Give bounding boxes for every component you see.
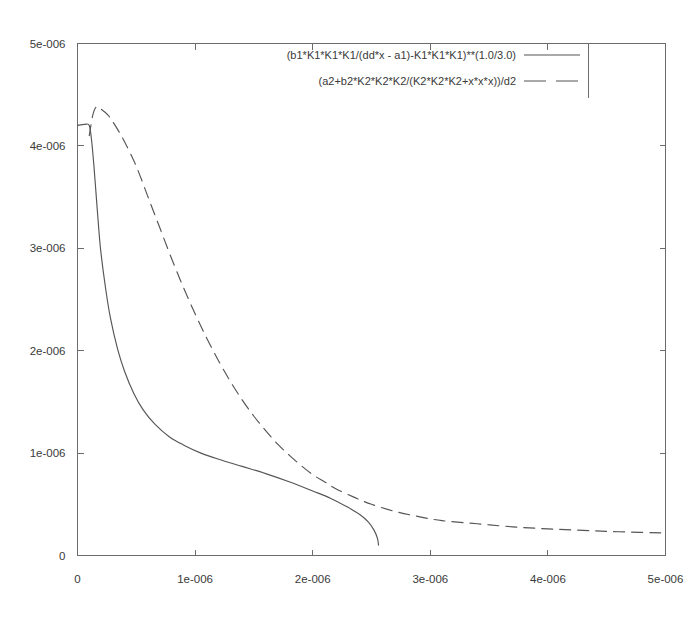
plot-frame xyxy=(78,44,666,556)
data-curve-1 xyxy=(78,124,379,545)
y-axis-tick-label: 1e-006 xyxy=(30,447,66,459)
x-axis-tick-label: 4e-006 xyxy=(530,573,566,585)
plot-border xyxy=(78,44,666,556)
x-axis-tick-label: 0 xyxy=(74,573,80,585)
chart-container: 01e-0062e-0063e-0064e-0065e-00601e-0062e… xyxy=(0,0,688,632)
y-axis-tick-label: 4e-006 xyxy=(30,140,66,152)
data-curves-layer xyxy=(78,107,666,546)
y-axis-tick-label: 5e-006 xyxy=(30,38,66,50)
legend-entry-label-1: (b1*K1*K1*K1/(dd*x - a1)-K1*K1*K1)**(1.0… xyxy=(287,49,516,61)
legend-entry-label-2: (a2+b2*K2*K2*K2/(K2*K2*K2+x*x*x))/d2 xyxy=(318,75,516,87)
x-axis-tick-label: 3e-006 xyxy=(412,573,448,585)
line-chart: 01e-0062e-0063e-0064e-0065e-00601e-0062e… xyxy=(0,0,688,632)
axis-labels-layer: 01e-0062e-0063e-0064e-0065e-00601e-0062e… xyxy=(30,38,684,585)
axis-ticks-layer xyxy=(78,44,666,556)
x-axis-tick-label: 2e-006 xyxy=(295,573,331,585)
x-axis-tick-label: 1e-006 xyxy=(177,573,213,585)
x-axis-tick-label: 5e-006 xyxy=(648,573,684,585)
legend: (b1*K1*K1*K1/(dd*x - a1)-K1*K1*K1)**(1.0… xyxy=(287,44,588,99)
data-curve-2 xyxy=(89,107,665,533)
y-axis-tick-label: 0 xyxy=(59,550,65,562)
y-axis-tick-label: 2e-006 xyxy=(30,345,66,357)
y-axis-tick-label: 3e-006 xyxy=(30,242,66,254)
